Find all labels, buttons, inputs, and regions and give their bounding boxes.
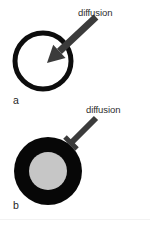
diffusion-label-panel-a: diffusion	[78, 8, 112, 18]
diffusion-blunt-bar-to-particle	[65, 118, 96, 149]
panel-b-group	[14, 118, 96, 205]
vesicle-outline-circle	[15, 33, 71, 89]
bar-shaft	[71, 118, 96, 143]
figure-canvas	[0, 0, 150, 226]
particle-core-circle	[29, 152, 67, 190]
arrow-shaft	[59, 17, 96, 51]
diffusion-figure: diffusion a diffusion b	[0, 0, 150, 226]
panel-label-b: b	[13, 200, 19, 211]
panel-a-group	[15, 17, 96, 89]
bottom-divider	[0, 219, 150, 220]
panel-label-a: a	[13, 95, 19, 106]
diffusion-label-panel-b: diffusion	[86, 105, 120, 115]
